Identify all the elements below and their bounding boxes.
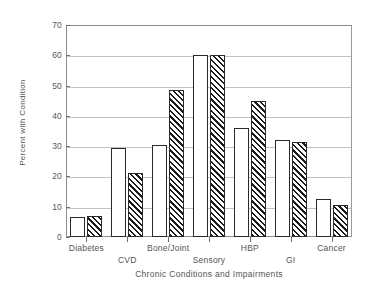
y-axis-tick-label: 20 [40, 171, 62, 181]
x-axis-tick-mark [332, 237, 333, 242]
y-axis-tick-label: 30 [40, 141, 62, 151]
bar-hatched [333, 205, 348, 237]
bar-open [234, 128, 249, 237]
bar-group [234, 25, 266, 237]
x-axis-tick-mark [209, 237, 210, 242]
bar-open [152, 145, 167, 237]
bar-group [275, 25, 307, 237]
x-axis-title: Chronic Conditions and Impairments [66, 269, 352, 279]
bar-group [193, 25, 225, 237]
bars-layer [66, 25, 352, 237]
x-axis-tick-mark [127, 237, 128, 242]
y-axis-tick-label: 0 [40, 232, 62, 242]
x-axis-tick-mark [250, 237, 251, 242]
y-axis-tick-label: 60 [40, 50, 62, 60]
bar-open [275, 140, 290, 237]
x-axis-category-label: Bone/Joint [147, 243, 189, 253]
y-axis-tick-label: 10 [40, 202, 62, 212]
bar-open [316, 199, 331, 237]
y-axis-tick-labels: 010203040506070 [38, 25, 62, 237]
bar-group [111, 25, 143, 237]
bar-hatched [87, 216, 102, 237]
x-axis-category-label: Cancer [317, 243, 346, 253]
bar-hatched [251, 101, 266, 237]
x-axis-category-label: Sensory [193, 255, 226, 265]
bar-group [316, 25, 348, 237]
x-axis-category-label: GI [286, 255, 295, 265]
x-axis-category-label: CVD [118, 255, 137, 265]
y-axis-tick-label: 50 [40, 81, 62, 91]
y-axis-tick-label: 40 [40, 111, 62, 121]
x-axis-category-label: Diabetes [69, 243, 104, 253]
x-axis-tick-mark [291, 237, 292, 242]
bar-group [70, 25, 102, 237]
x-axis-tick-mark [168, 237, 169, 242]
bar-hatched [128, 173, 143, 237]
x-axis-category-label: HBP [241, 243, 259, 253]
bar-chart: Percent with Condition 010203040506070 D… [0, 0, 371, 291]
bar-hatched [292, 142, 307, 237]
bar-hatched [210, 55, 225, 237]
y-axis-title: Percent with Condition [18, 43, 27, 203]
bar-open [70, 217, 85, 237]
bar-open [193, 55, 208, 237]
x-axis-tick-mark [86, 237, 87, 242]
bar-group [152, 25, 184, 237]
y-axis-tick-label: 70 [40, 20, 62, 30]
bar-hatched [169, 90, 184, 237]
bar-open [111, 148, 126, 237]
